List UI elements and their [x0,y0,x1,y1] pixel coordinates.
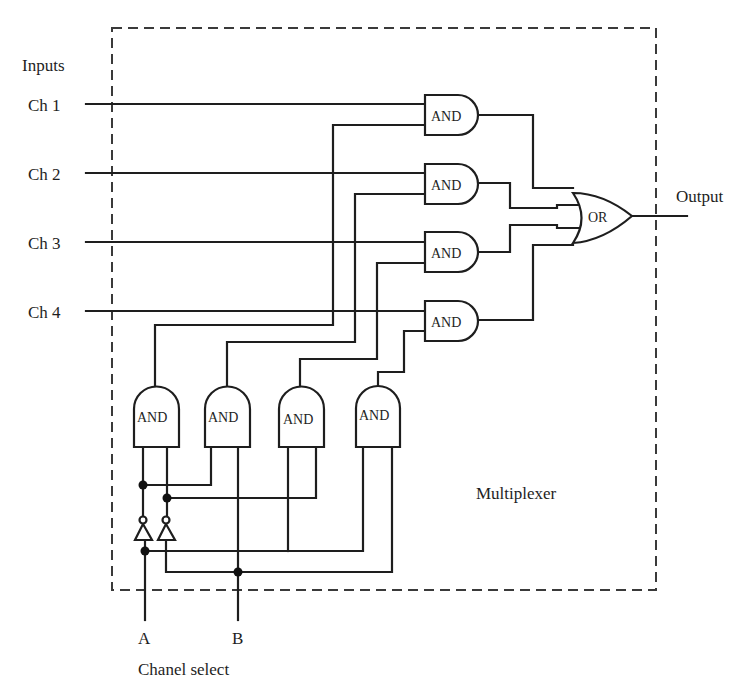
decoder-and-gate-2: AND [205,387,250,448]
and3-to-or-wire [478,225,580,252]
a-not-to-decoder2-wire [143,447,211,485]
and-gate-label: AND [431,178,461,193]
and-gate-label: AND [431,315,461,330]
junction-dot [163,494,172,503]
and-gate-label: AND [137,410,167,425]
inverter-bubble [140,517,147,524]
output-label: Output [676,187,724,206]
channel-4-label: Ch 4 [28,303,61,322]
channel-and-gate-3: AND [425,232,478,272]
channel-2-label: Ch 2 [28,165,61,184]
inverter-b [158,517,175,541]
and4-to-or-wire [478,245,573,320]
decoder4-to-and4-wire [378,331,425,387]
channel-1-label: Ch 1 [28,96,61,115]
inverter-triangle [135,524,152,540]
decoder-and-gate-3: AND [279,387,324,448]
junction-dot [141,547,150,556]
and-gate-label: AND [208,410,238,425]
and-gate-label: AND [431,109,461,124]
junction-dot [234,568,243,577]
channel-3-label: Ch 3 [28,234,61,253]
channel-and-gate-2: AND [425,164,478,204]
junction-dot [139,481,148,490]
inverter-a [135,517,152,541]
decoder1-to-and1-wire [155,125,425,387]
multiplexer-label: Multiplexer [476,484,557,503]
decoder-and-gate-1: AND [134,387,179,448]
and-gate-label: AND [283,412,313,427]
channel-and-gate-4: AND [425,301,478,341]
and-gate-label: AND [359,408,389,423]
select-a-label: A [138,629,151,648]
and-gate-label: AND [431,246,461,261]
inverter-bubble [163,517,170,524]
b-to-inverter-and-decoder4-wire [166,447,392,572]
and-to-or-wires [478,115,580,320]
b-not-to-decoder3-wire [167,447,316,498]
inverter-triangle [158,524,175,540]
channel-and-gate-1: AND [425,95,478,135]
and1-to-or-wire [478,115,573,188]
multiplexer-diagram: Inputs Ch 1 Ch 2 Ch 3 Ch 4 Output Multip… [0,0,751,695]
or-gate: OR [573,193,632,243]
multiplexer-boundary [112,28,656,590]
decoder-output-wires [155,125,425,387]
select-wiring [143,447,392,620]
decoder-and-gate-4: AND [356,386,400,447]
select-b-label: B [232,629,243,648]
and2-to-or-wire [478,183,580,208]
or-gate-label: OR [588,210,608,225]
channel-input-wires [86,104,425,311]
channel-select-label: Chanel select [138,660,229,679]
junction-dots [139,481,243,577]
inputs-label: Inputs [22,56,65,75]
